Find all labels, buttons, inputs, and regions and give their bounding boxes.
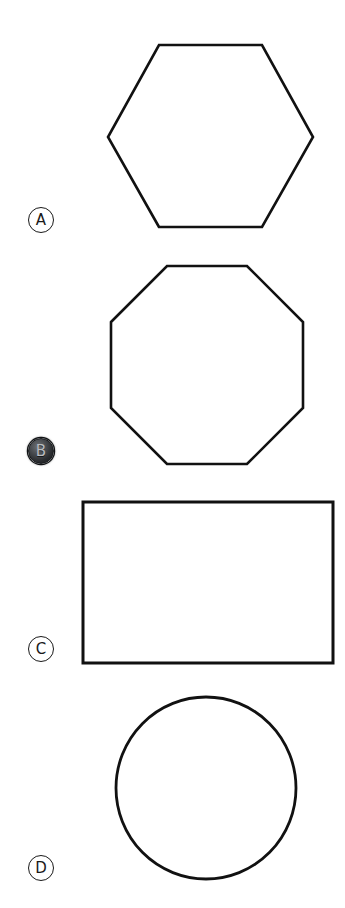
shape-circle[interactable] xyxy=(113,694,299,884)
option-letter: C xyxy=(36,641,46,656)
shape-outline-rectangle xyxy=(80,499,336,666)
shape-outline-circle xyxy=(113,694,299,884)
shape-hexagon[interactable] xyxy=(105,42,316,233)
shape-path xyxy=(108,45,313,227)
option-marker-d[interactable]: D xyxy=(28,855,54,881)
shape-outline-octagon xyxy=(108,263,308,467)
option-marker-c[interactable]: C xyxy=(28,636,54,662)
shape-path xyxy=(83,502,333,663)
option-marker-a[interactable]: A xyxy=(28,207,54,233)
worksheet-page: ABCD xyxy=(0,0,345,908)
shape-outline-hexagon xyxy=(105,42,316,233)
option-marker-b[interactable]: B xyxy=(28,438,54,464)
shape-octagon[interactable] xyxy=(108,263,308,467)
option-letter: B xyxy=(36,443,46,458)
option-letter: A xyxy=(36,212,46,227)
option-letter: D xyxy=(35,860,47,875)
shape-rectangle[interactable] xyxy=(80,499,336,666)
shape-path xyxy=(116,697,296,879)
shape-path xyxy=(111,266,303,464)
